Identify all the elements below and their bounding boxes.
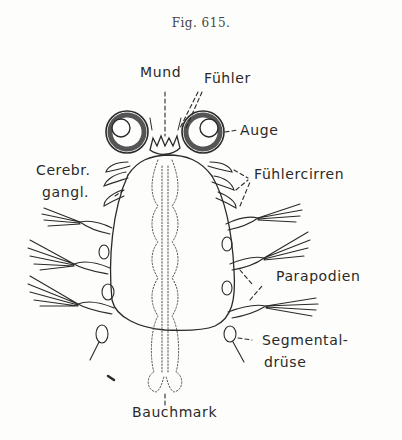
right-eye-icon [182, 111, 224, 153]
label-bauchmark: Bauchmark [132, 404, 217, 420]
right-cirri [208, 162, 236, 208]
label-parapodien: Parapodien [276, 268, 360, 284]
annelid-larva-drawing [0, 0, 402, 440]
label-gangl: gangl. [42, 184, 89, 200]
label-fuehlercirren: Fühlercirren [254, 166, 344, 182]
mouth-icon [150, 136, 180, 154]
label-fuehler: Fühler [204, 70, 251, 86]
label-cerebr: Cerebr. [36, 162, 90, 178]
left-eye-icon [106, 111, 148, 153]
left-parapodia [28, 208, 114, 360]
label-segmental: Segmental- [262, 332, 349, 348]
label-auge: Auge [240, 122, 278, 138]
left-cirri [104, 162, 130, 206]
ventral-nerve-cord [148, 160, 182, 392]
label-mund: Mund [140, 64, 181, 80]
figure-page: Fig. 615. [0, 0, 402, 440]
label-druese: drüse [264, 354, 306, 370]
